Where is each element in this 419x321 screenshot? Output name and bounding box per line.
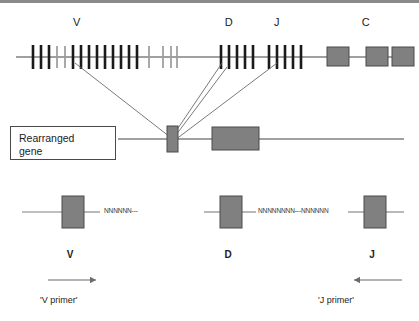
c-gene-segment-box — [392, 47, 414, 66]
primer-segment-box-v — [62, 196, 84, 228]
c-gene-segment-box — [327, 47, 349, 66]
rearranged-gene-caption: Rearranged gene — [19, 132, 74, 158]
germline-label-j: J — [274, 17, 280, 28]
v-primer-arrow-head — [90, 277, 96, 283]
rearranged-dj-segment-box — [212, 127, 259, 150]
germline-label-c: C — [362, 17, 370, 28]
germline-label-v: V — [73, 17, 81, 28]
c-gene-segment-box — [366, 47, 388, 66]
germline-label-d: D — [225, 17, 233, 28]
primer-segment-label-d: D — [224, 250, 231, 260]
j-primer-arrow-head — [354, 277, 360, 283]
rearranged-gene-caption-box: Rearranged gene — [10, 126, 116, 160]
rearranged-gene-layer — [75, 63, 404, 152]
recombination-connector-line — [172, 63, 222, 137]
j-primer-label: 'J primer' — [318, 296, 354, 305]
primer-segment-box-d — [220, 196, 242, 228]
v-primer-label: 'V primer' — [40, 296, 77, 305]
primer-detail-layer — [22, 196, 404, 283]
n-run-label-d: NNNNNNNN---NNNNNN — [258, 208, 329, 215]
primer-segment-label-j: J — [369, 250, 375, 260]
rearranged-v-segment-box — [167, 126, 178, 152]
germline-locus-layer — [16, 45, 414, 69]
primer-segment-label-v: V — [67, 250, 74, 260]
n-run-label-v: NNNNNN--- — [104, 208, 138, 215]
vdj-recombination-diagram — [0, 0, 419, 321]
primer-segment-box-j — [364, 196, 386, 228]
